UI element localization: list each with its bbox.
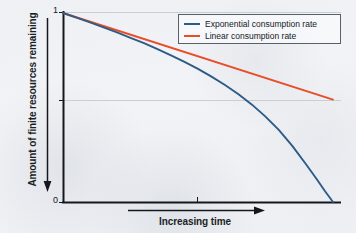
x-axis-title: Increasing time bbox=[105, 216, 285, 227]
y-tick-label-bottom: 0 bbox=[53, 195, 58, 205]
legend-swatch-exponential bbox=[184, 23, 200, 25]
y-tick-label-top: 1 bbox=[53, 5, 58, 15]
x-direction-arrow-head bbox=[254, 206, 265, 214]
legend-item-exponential: Exponential consumption rate bbox=[184, 18, 336, 30]
y-direction-arrow-head bbox=[44, 181, 52, 192]
chart-legend: Exponential consumption rate Linear cons… bbox=[178, 14, 341, 44]
legend-label-linear: Linear consumption rate bbox=[205, 31, 296, 41]
chart-figure: 1 0 Amount of finite resources remaining… bbox=[0, 0, 356, 233]
legend-swatch-linear bbox=[184, 35, 200, 37]
legend-label-exponential: Exponential consumption rate bbox=[205, 19, 317, 29]
y-axis-title: Amount of finite resources remaining bbox=[27, 5, 38, 195]
legend-item-linear: Linear consumption rate bbox=[184, 30, 336, 42]
